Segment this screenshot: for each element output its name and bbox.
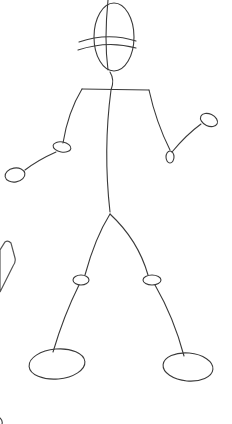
left-shin (53, 285, 79, 352)
left-elbow (52, 141, 71, 154)
side-dark-arc (0, 418, 2, 424)
right-hand (198, 111, 219, 129)
hat-brim-top (79, 37, 136, 42)
spine (107, 72, 113, 212)
stick-figure (4, 0, 220, 383)
right-knee (143, 275, 161, 285)
right-forearm (172, 124, 201, 152)
head-vertical-guide (106, 0, 108, 70)
shoulders (82, 89, 149, 90)
right-upper-arm (149, 90, 170, 150)
ground-shading (0, 382, 232, 424)
left-hand (4, 166, 26, 183)
left-foot (28, 347, 86, 382)
sketch-canvas (0, 0, 232, 424)
right-shin (155, 285, 184, 356)
right-thigh (110, 214, 148, 275)
right-wrist (166, 151, 174, 163)
left-thigh (85, 214, 110, 275)
left-upper-arm (63, 89, 82, 143)
side-gray-shape (0, 241, 15, 292)
hat-brim-bottom (78, 44, 136, 50)
left-knee (73, 275, 89, 285)
right-foot (162, 351, 214, 383)
left-forearm (25, 152, 56, 170)
